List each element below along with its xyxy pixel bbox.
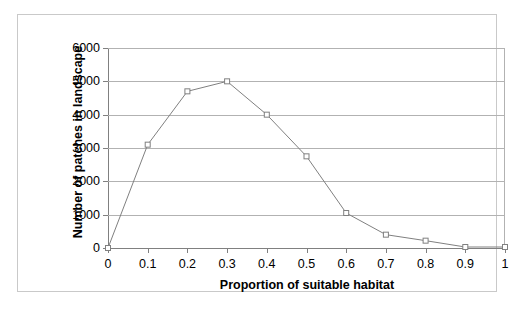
y-axis-tick-label: 1000: [72, 208, 100, 222]
x-axis-tick-label: 0.1: [139, 257, 156, 271]
x-axis-tick-label: 0.7: [377, 257, 394, 271]
y-axis-tick-labels: 0100020003000400050006000: [54, 48, 100, 248]
data-point-marker: [264, 112, 269, 117]
data-point-marker: [383, 232, 388, 237]
data-point-marker: [304, 154, 309, 159]
data-series-line: [108, 48, 505, 248]
y-axis-tick-label: 3000: [72, 141, 100, 155]
y-axis-tick-label: 0: [93, 241, 100, 255]
chart-figure: Number of patches in landscape 010002000…: [0, 0, 514, 309]
series-polyline: [108, 81, 505, 248]
x-axis-tick-label: 0.3: [218, 257, 235, 271]
x-axis-title: Proportion of suitable habitat: [108, 278, 506, 292]
y-axis-tick-label: 6000: [72, 41, 100, 55]
x-axis-tick-label: 0: [105, 257, 112, 271]
x-axis-tick-label: 0.5: [298, 257, 315, 271]
x-axis-tick: [267, 248, 268, 253]
plot-area: [108, 48, 505, 248]
x-axis-tick-label: 0.8: [417, 257, 434, 271]
x-axis-tick-labels: 00.10.20.30.40.50.60.70.80.91: [108, 257, 506, 275]
x-axis-tick: [386, 248, 387, 253]
y-axis-title-container: Number of patches in landscape: [28, 35, 52, 261]
x-axis-tick-label: 0.9: [457, 257, 474, 271]
data-point-marker: [463, 245, 468, 250]
x-axis-tick-label: 0.2: [179, 257, 196, 271]
x-axis-tick-label: 0.6: [337, 257, 354, 271]
x-axis-tick: [346, 248, 347, 253]
y-axis-tick-label: 4000: [72, 108, 100, 122]
y-axis-tick-label: 2000: [72, 174, 100, 188]
y-axis-tick-label: 5000: [72, 74, 100, 88]
data-point-marker: [145, 142, 150, 147]
data-point-marker: [344, 211, 349, 216]
x-axis-tick: [227, 248, 228, 253]
data-point-marker: [185, 89, 190, 94]
x-axis-tick-label: 1: [502, 257, 509, 271]
data-point-marker: [503, 245, 508, 250]
x-axis-tick: [307, 248, 308, 253]
x-axis-tick: [187, 248, 188, 253]
x-axis-tick: [426, 248, 427, 253]
x-axis-tick-label: 0.4: [258, 257, 275, 271]
data-point-marker: [225, 79, 230, 84]
x-axis-tick: [148, 248, 149, 253]
chart-outer-frame: Number of patches in landscape 010002000…: [17, 14, 497, 292]
series-markers: [106, 79, 508, 251]
data-point-marker: [106, 246, 111, 251]
data-point-marker: [423, 238, 428, 243]
